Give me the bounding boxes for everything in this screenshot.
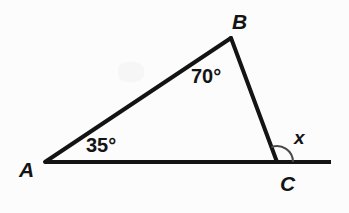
angle-measure-a: 35°: [86, 135, 116, 155]
triangle-diagram-svg: [0, 0, 349, 213]
segment-AB: [45, 38, 231, 162]
segment-BC: [231, 38, 277, 162]
unknown-angle-label-x: x: [294, 128, 305, 147]
vertex-label-b: B: [232, 11, 247, 32]
angle-measure-b: 70°: [191, 66, 221, 86]
vertex-label-a: A: [19, 159, 34, 180]
vertex-label-c: C: [280, 173, 295, 194]
geometry-figure: A B C 35° 70° x: [0, 0, 349, 213]
